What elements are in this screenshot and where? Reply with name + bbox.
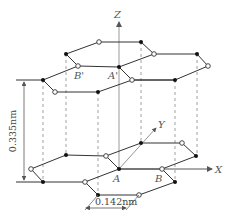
atom-label-b: B xyxy=(154,173,162,184)
interlayer-spacing-label: 0.335nm xyxy=(7,110,18,152)
x-axis-label: X xyxy=(214,164,223,175)
bond-length-label: 0.142nm xyxy=(95,196,137,207)
z-axis: Z xyxy=(113,9,122,169)
z-axis-label: Z xyxy=(113,9,122,20)
bond-length-dimension: 0.142nm xyxy=(85,195,139,210)
atom-label-a: A xyxy=(112,173,120,184)
interlayer-dimension: 0.335nm xyxy=(7,82,24,180)
top-layer-bonds xyxy=(16,42,208,92)
y-axis-label: Y xyxy=(158,119,166,130)
atom-label-a-prime: A' xyxy=(107,70,118,81)
atom-label-b-prime: B' xyxy=(73,70,84,81)
graphite-structure-diagram: Z X Y xyxy=(0,0,233,220)
